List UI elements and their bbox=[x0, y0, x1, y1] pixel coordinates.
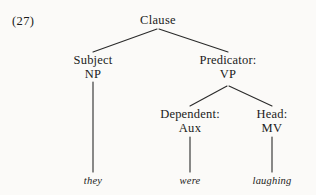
branch-clause-subject bbox=[93, 29, 157, 52]
node-subject-category: NP bbox=[74, 68, 113, 82]
terminal-word-were: were bbox=[180, 175, 201, 186]
branch-vp-dependent bbox=[190, 86, 227, 106]
node-predicator-category: VP bbox=[199, 68, 256, 82]
branch-vp-head bbox=[229, 86, 272, 106]
terminal-word-they: they bbox=[84, 175, 102, 186]
node-predicator-vp: Predicator: VP bbox=[199, 54, 256, 81]
node-clause-label: Clause bbox=[140, 14, 176, 28]
terminal-word-laughing: laughing bbox=[253, 175, 292, 186]
node-head-category: MV bbox=[257, 122, 288, 136]
node-dependent-category: Aux bbox=[160, 122, 220, 136]
node-predicator-function: Predicator: bbox=[199, 54, 256, 68]
node-dependent-function: Dependent: bbox=[160, 108, 220, 122]
tree-branch-lines bbox=[0, 0, 316, 195]
node-dependent-aux: Dependent: Aux bbox=[160, 108, 220, 135]
node-head-mv: Head: MV bbox=[257, 108, 288, 135]
node-clause: Clause bbox=[140, 14, 176, 28]
syntax-tree-figure: (27) Clause Subject NP Predicator: VP bbox=[0, 0, 316, 195]
branch-clause-predicator bbox=[159, 29, 228, 52]
node-head-function: Head: bbox=[257, 108, 288, 122]
node-subject-np: Subject NP bbox=[74, 54, 113, 81]
node-subject-function: Subject bbox=[74, 54, 113, 68]
